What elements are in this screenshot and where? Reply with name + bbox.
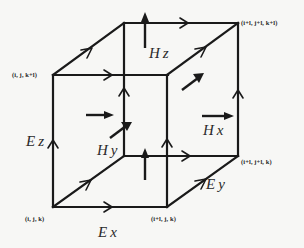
hx-arrow-left-icon <box>104 111 114 119</box>
vertex-label-i1-j1-k1: (i+l, j+l, k+l) <box>241 19 277 26</box>
field-label-hz: Hz <box>149 45 172 62</box>
hz-arrow-bottom-icon <box>141 148 149 158</box>
field-label-ey: Ey <box>206 176 228 193</box>
field-label-ex: Ex <box>98 224 120 241</box>
field-label-hx: Hx <box>203 122 227 139</box>
edge-diag-bottom-left <box>53 156 124 207</box>
field-label-ez: Ez <box>26 133 47 150</box>
vertex-label-i-j-k: (i, j, k) <box>25 215 44 222</box>
edge-diag-top-right <box>167 23 238 75</box>
hz-arrow-top-icon <box>141 12 149 22</box>
vertex-label-i-j-k1: (i, j, k+l) <box>12 71 37 78</box>
hy-arrow-back-shaft <box>182 78 198 90</box>
vertex-label-i1-j-k: (i+l, j, k) <box>151 215 176 222</box>
yee-cell-diagram <box>0 0 304 248</box>
vertex-label-i1-j1-k: (i+l, j+l, k) <box>241 158 272 165</box>
hx-arrow-right-icon <box>224 112 234 120</box>
field-label-hy: Hy <box>97 142 121 159</box>
